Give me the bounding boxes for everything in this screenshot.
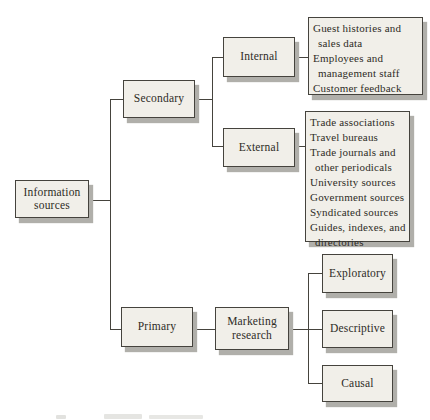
list-item: University sources bbox=[310, 175, 407, 190]
connector-secondary-right bbox=[195, 99, 212, 100]
connector-to-internal bbox=[212, 57, 223, 58]
node-label: Marketing research bbox=[216, 315, 288, 341]
list-item: Syndicated sources bbox=[310, 205, 407, 220]
node-descriptive: Descriptive bbox=[322, 310, 393, 348]
list-item: Trade journals and other periodicals bbox=[310, 145, 407, 175]
node-internal: Internal bbox=[223, 37, 295, 77]
connector-to-descriptive bbox=[308, 329, 322, 330]
connector-to-causal bbox=[308, 383, 322, 384]
node-label: Information sources bbox=[16, 186, 88, 212]
node-label: Descriptive bbox=[330, 322, 385, 335]
node-primary: Primary bbox=[121, 307, 193, 347]
list-item: Customer feedback bbox=[313, 81, 420, 96]
connector-internal-external-vertical bbox=[212, 57, 213, 147]
node-external: External bbox=[223, 128, 295, 167]
node-causal: Causal bbox=[322, 365, 393, 402]
cropped-text-fragment bbox=[149, 415, 203, 419]
internal-sources-list: Guest histories and sales data Employees… bbox=[308, 17, 423, 95]
node-secondary: Secondary bbox=[123, 80, 195, 118]
connector-external-to-list bbox=[295, 146, 305, 147]
external-sources-list: Trade associations Travel bureaus Trade … bbox=[305, 111, 410, 242]
connector-to-exploratory bbox=[308, 273, 322, 274]
list-item: Guides, indexes, and directories bbox=[310, 220, 407, 250]
node-exploratory: Exploratory bbox=[322, 254, 393, 293]
connector-trunk-vertical bbox=[110, 99, 111, 330]
cropped-text-fragment bbox=[56, 415, 66, 419]
node-label: Primary bbox=[138, 320, 176, 333]
hierarchy-diagram: Information sources Secondary Internal E… bbox=[0, 0, 430, 420]
connector-root-to-trunk bbox=[89, 200, 110, 201]
list-item: Guest histories and sales data bbox=[313, 21, 420, 51]
cropped-text-fragment bbox=[104, 414, 142, 419]
list-item: Travel bureaus bbox=[310, 130, 407, 145]
node-label: External bbox=[239, 141, 280, 154]
node-label: Exploratory bbox=[329, 267, 386, 280]
node-label: Internal bbox=[240, 50, 277, 63]
list-item: Employees and management staff bbox=[313, 51, 420, 81]
node-label: Secondary bbox=[134, 92, 184, 105]
node-marketing-research: Marketing research bbox=[215, 307, 289, 350]
connector-trunk-to-primary bbox=[110, 329, 121, 330]
list-item: Government sources bbox=[310, 190, 407, 205]
connector-to-external bbox=[212, 146, 223, 147]
list-item: Trade associations bbox=[310, 115, 407, 130]
connector-internal-to-list bbox=[295, 57, 308, 58]
node-information-sources: Information sources bbox=[15, 180, 89, 218]
connector-trunk-to-secondary bbox=[110, 99, 123, 100]
connector-primary-to-marketing bbox=[193, 329, 215, 330]
connector-marketing-right bbox=[289, 329, 308, 330]
node-label: Causal bbox=[341, 377, 374, 390]
